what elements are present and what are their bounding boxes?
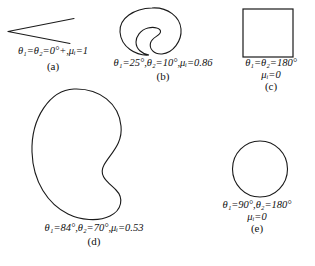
caption-d-line-1: θ₁=84°,θ₂=70°,μᵢ=0.53 — [14, 222, 174, 234]
figure-panel-grid: θ₁=θ₂=0°+,μᵢ=1 (a) θ₁=25°,θ₂=10°,μᵢ=0.86… — [0, 0, 315, 266]
shape-circle — [231, 139, 291, 201]
caption-a: θ₁=θ₂=0°+,μᵢ=1 — [0, 45, 106, 57]
caption-b: θ₁=25°,θ₂=10°,μᵢ=0.86 — [98, 57, 228, 69]
caption-c: θ₁=θ₂=180° μᵢ=0 — [228, 57, 314, 81]
caption-d: θ₁=84°,θ₂=70°,μᵢ=0.53 — [14, 222, 174, 234]
panel-letter-b: (b) — [98, 70, 228, 82]
shape-thin-wedge — [4, 10, 80, 50]
panel-letter-d: (d) — [14, 235, 174, 247]
panel-letter-a: (a) — [0, 60, 106, 72]
panel-letter-e: (e) — [200, 222, 314, 234]
caption-a-line-1: θ₁=θ₂=0°+,μᵢ=1 — [0, 45, 106, 57]
shape-square — [242, 8, 296, 60]
caption-c-line-1: θ₁=θ₂=180° — [228, 57, 314, 69]
panel-letter-c: (c) — [228, 80, 314, 92]
caption-e: θ₁=90°,θ₂=180° μᵢ=0 — [200, 199, 314, 223]
caption-b-line-1: θ₁=25°,θ₂=10°,μᵢ=0.86 — [98, 57, 228, 69]
shape-large-bean — [28, 86, 132, 222]
caption-e-line-1: θ₁=90°,θ₂=180° — [200, 199, 314, 211]
shape-small-bean — [116, 4, 186, 58]
